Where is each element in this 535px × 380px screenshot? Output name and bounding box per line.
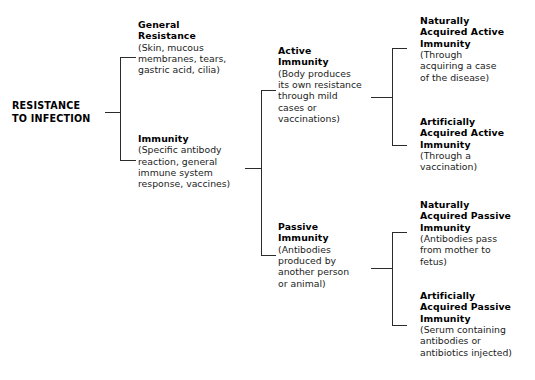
node-naturally-acquired-passive-immunity-heading-line1: Naturally	[420, 199, 532, 210]
node-naturally-acquired-passive-immunity-body-line3: fetus)	[420, 256, 532, 267]
node-naturally-acquired-active-immunity-body-line2: acquiring a case	[420, 60, 532, 71]
node-artificially-acquired-passive-immunity-heading-line1: Artificially	[420, 290, 535, 301]
root-label-line2: TO INFECTION	[12, 113, 91, 124]
node-artificially-acquired-passive-immunity-body-line3: antibiotics injected)	[420, 347, 535, 358]
connector-level1-arm-top	[120, 57, 136, 58]
node-naturally-acquired-active-immunity: Naturally Acquired Active Immunity (Thro…	[420, 15, 532, 83]
connector-level2-arm-bottom	[261, 255, 276, 256]
node-immunity-heading-line1: Immunity	[138, 133, 260, 144]
node-passive-immunity: Passive Immunity (Antibodies produced by…	[278, 221, 382, 289]
node-naturally-acquired-active-immunity-body-line1: (Through	[420, 49, 532, 60]
diagram-canvas: RESISTANCE TO INFECTION General Resistan…	[0, 0, 535, 380]
connector-level3-passive-arm-top	[392, 232, 407, 233]
connector-bracket-level3-passive	[392, 232, 393, 326]
connector-immunity-stem	[245, 168, 262, 169]
connector-level3-active-arm-top	[392, 48, 407, 49]
node-active-immunity-heading-line1: Active	[278, 45, 382, 56]
node-passive-immunity-body-line4: or animal)	[278, 278, 382, 289]
connector-level3-passive-arm-bottom	[392, 325, 407, 326]
node-artificially-acquired-active-immunity: Artificially Acquired Active Immunity (T…	[420, 116, 532, 173]
node-active-immunity-heading-line2: Immunity	[278, 56, 382, 67]
connector-active-immunity-stem	[371, 97, 393, 98]
node-active-immunity-body-line2: its own resistance	[278, 79, 382, 90]
node-artificially-acquired-passive-immunity-body-line2: antibodies or	[420, 335, 535, 346]
node-naturally-acquired-active-immunity-body-line3: of the disease)	[420, 72, 532, 83]
node-naturally-acquired-active-immunity-heading-line1: Naturally	[420, 15, 532, 26]
node-artificially-acquired-active-immunity-body-line1: (Through a	[420, 150, 532, 161]
node-active-immunity-body-line4: cases or	[278, 102, 382, 113]
connector-root-stem	[105, 112, 121, 113]
node-naturally-acquired-passive-immunity-body-line1: (Antibodies pass	[420, 233, 532, 244]
node-artificially-acquired-passive-immunity-heading-line2: Acquired Passive	[420, 301, 535, 312]
connector-level3-active-arm-bottom	[392, 145, 407, 146]
node-immunity: Immunity (Specific antibody reaction, ge…	[138, 133, 260, 190]
root-label-line1: RESISTANCE	[12, 100, 80, 111]
node-artificially-acquired-active-immunity-heading-line2: Acquired Active	[420, 127, 532, 138]
node-naturally-acquired-active-immunity-heading-line2: Acquired Active	[420, 26, 532, 37]
node-naturally-acquired-active-immunity-heading-line3: Immunity	[420, 38, 532, 49]
node-active-immunity-body-line5: vaccinations)	[278, 113, 382, 124]
node-passive-immunity-body-line2: produced by	[278, 255, 382, 266]
node-active-immunity-body-line3: through mild	[278, 90, 382, 101]
node-immunity-body-line1: (Specific antibody	[138, 144, 260, 155]
connector-level2-arm-top	[261, 90, 276, 91]
node-artificially-acquired-active-immunity-body-line2: vaccination)	[420, 161, 532, 172]
node-general-resistance-body-line2: membranes, tears,	[138, 53, 256, 64]
node-naturally-acquired-passive-immunity-heading-line3: Immunity	[420, 222, 532, 233]
node-general-resistance: General Resistance (Skin, mucous membran…	[138, 19, 256, 76]
node-general-resistance-heading-line2: Resistance	[138, 30, 256, 41]
node-general-resistance-heading-line1: General	[138, 19, 256, 30]
node-artificially-acquired-passive-immunity-heading-line3: Immunity	[420, 313, 535, 324]
connector-bracket-level1	[120, 57, 121, 161]
node-active-immunity: Active Immunity (Body produces its own r…	[278, 45, 382, 124]
node-immunity-body-line4: response, vaccines)	[138, 178, 260, 189]
node-active-immunity-body-line1: (Body produces	[278, 68, 382, 79]
node-artificially-acquired-passive-immunity-body-line1: (Serum containing	[420, 324, 535, 335]
connector-level1-arm-bottom	[120, 160, 136, 161]
node-passive-immunity-heading-line2: Immunity	[278, 232, 382, 243]
node-naturally-acquired-passive-immunity-heading-line2: Acquired Passive	[420, 210, 532, 221]
node-passive-immunity-heading-line1: Passive	[278, 221, 382, 232]
node-artificially-acquired-passive-immunity: Artificially Acquired Passive Immunity (…	[420, 290, 535, 358]
connector-passive-immunity-stem	[371, 268, 393, 269]
node-immunity-body-line2: reaction, general	[138, 156, 260, 167]
node-passive-immunity-body-line1: (Antibodies	[278, 244, 382, 255]
node-general-resistance-body-line1: (Skin, mucous	[138, 42, 256, 53]
node-naturally-acquired-passive-immunity-body-line2: from mother to	[420, 244, 532, 255]
connector-bracket-level2	[261, 90, 262, 256]
node-passive-immunity-body-line3: another person	[278, 266, 382, 277]
node-naturally-acquired-passive-immunity: Naturally Acquired Passive Immunity (Ant…	[420, 199, 532, 267]
node-immunity-body-line3: immune system	[138, 167, 260, 178]
root-node-resistance-to-infection: RESISTANCE TO INFECTION	[12, 100, 104, 125]
node-artificially-acquired-active-immunity-heading-line3: Immunity	[420, 139, 532, 150]
node-artificially-acquired-active-immunity-heading-line1: Artificially	[420, 116, 532, 127]
connector-bracket-level3-active	[392, 48, 393, 146]
node-general-resistance-body-line3: gastric acid, cilia)	[138, 64, 256, 75]
